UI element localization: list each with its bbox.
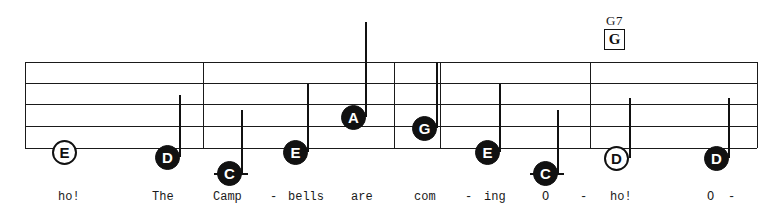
lyric-syllable-1: The xyxy=(152,190,174,204)
lyric-syllable-2: Camp xyxy=(213,190,242,204)
staff-line-5 xyxy=(25,148,757,149)
chord-box-letter: G xyxy=(604,29,625,50)
note-6-head-G[interactable]: G xyxy=(412,116,437,141)
note-8-stem xyxy=(557,110,559,173)
note-5-label: A xyxy=(348,110,359,125)
lyric-syllable-5: are xyxy=(351,190,373,204)
note-7-label: E xyxy=(482,145,492,160)
music-notation-sheet: EDCEAGECDD G7 G ho!TheCamp-bellsarecom-i… xyxy=(0,0,780,217)
note-9-head-D[interactable]: D xyxy=(604,146,629,171)
note-7-stem xyxy=(499,84,501,152)
barline-2 xyxy=(394,62,395,148)
lyric-syllable-0: ho! xyxy=(58,190,80,204)
lyric-syllable-11: ho! xyxy=(610,190,632,204)
note-5-head-A[interactable]: A xyxy=(341,105,366,130)
note-1-label: E xyxy=(59,145,69,160)
lyric-syllable-8: ing xyxy=(484,190,506,204)
note-4-head-E[interactable]: E xyxy=(283,140,308,165)
note-10-head-D[interactable]: D xyxy=(704,146,729,171)
barline-end xyxy=(757,62,758,148)
note-9-stem xyxy=(629,98,631,158)
staff-line-1 xyxy=(25,62,757,63)
staff-line-3 xyxy=(25,104,757,105)
note-8-label: C xyxy=(540,166,551,181)
barline-start xyxy=(25,62,26,148)
note-2-label: D xyxy=(162,150,173,165)
note-4-stem xyxy=(307,84,309,152)
lyric-syllable-7: - xyxy=(465,190,472,204)
chord-symbol: G7 G xyxy=(604,14,625,50)
lyric-syllable-13: - xyxy=(728,190,735,204)
lyric-syllable-10: - xyxy=(580,190,587,204)
note-5-stem xyxy=(365,22,367,117)
staff-line-2 xyxy=(25,83,757,84)
note-3-stem xyxy=(241,110,243,173)
note-3-label: C xyxy=(224,166,235,181)
note-6-stem xyxy=(436,62,438,128)
barline-1 xyxy=(203,62,204,148)
barline-4 xyxy=(590,62,591,148)
note-1-head-E[interactable]: E xyxy=(52,140,77,165)
note-10-stem xyxy=(728,98,730,158)
lyric-syllable-3: - xyxy=(270,190,277,204)
note-2-head-D[interactable]: D xyxy=(155,145,180,170)
note-7-head-E[interactable]: E xyxy=(475,140,500,165)
note-10-label: D xyxy=(711,151,722,166)
lyric-syllable-12: O xyxy=(707,190,714,204)
note-3-head-C[interactable]: C xyxy=(217,161,242,186)
note-8-head-C[interactable]: C xyxy=(533,161,558,186)
lyric-syllable-6: com xyxy=(414,190,436,204)
note-4-label: E xyxy=(290,145,300,160)
staff-line-4 xyxy=(25,126,757,127)
note-6-label: G xyxy=(419,121,431,136)
lyric-syllable-9: O xyxy=(542,190,549,204)
chord-name-label: G7 xyxy=(604,14,625,28)
note-9-label: D xyxy=(611,151,622,166)
barline-3 xyxy=(440,62,441,148)
lyric-syllable-4: bells xyxy=(288,190,324,204)
note-2-stem xyxy=(179,95,181,157)
